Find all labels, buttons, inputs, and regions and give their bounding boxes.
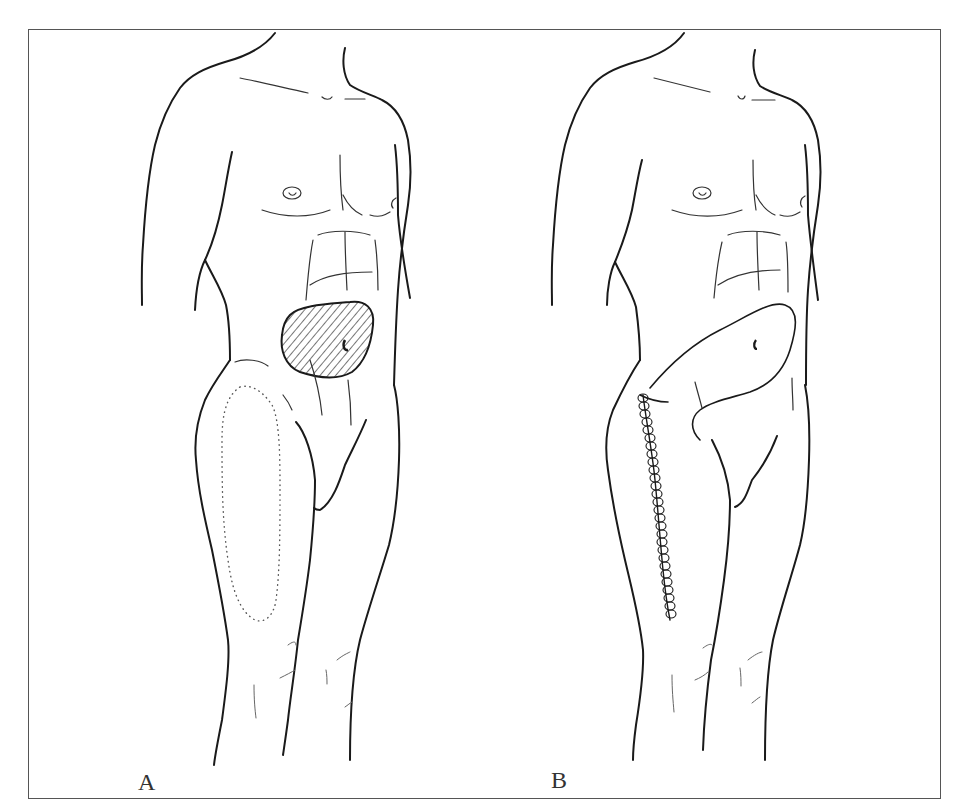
suture-line [638, 394, 676, 620]
panel-b-figure [552, 33, 821, 760]
panel-label-a: A [138, 770, 155, 794]
panel-label-b: B [551, 768, 567, 792]
panel-a-figure [142, 33, 411, 765]
illustration [0, 0, 966, 811]
